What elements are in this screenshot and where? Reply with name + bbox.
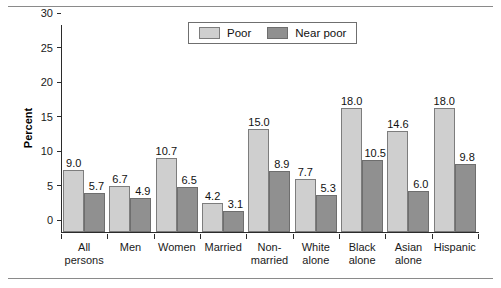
legend-swatch-near-poor-icon: [267, 27, 288, 39]
bar-near-poor[interactable]: 9.8: [455, 164, 476, 232]
bar-value-label: 7.7: [298, 167, 313, 178]
bar-value-label: 15.0: [248, 117, 269, 128]
x-axis-tick-mark: [478, 234, 479, 239]
bar-poor[interactable]: 10.7: [156, 158, 177, 232]
x-axis-category: Blackalone: [339, 234, 385, 267]
bar-near-poor[interactable]: 6.5: [177, 187, 198, 232]
y-axis-tick: 0: [47, 214, 61, 226]
bar-group: 6.74.9: [107, 25, 153, 232]
x-axis-line: [61, 232, 479, 233]
bar-near-poor[interactable]: 3.1: [223, 211, 244, 232]
x-axis-category: Hispanic: [432, 234, 478, 267]
x-axis-tick-mark: [61, 234, 62, 239]
x-axis-category: Men: [107, 234, 153, 267]
x-axis-category: Allpersons: [61, 234, 107, 267]
y-axis-tick-label: 15: [41, 111, 57, 123]
bar-group: 7.75.3: [293, 25, 339, 232]
x-axis-category-line: Women: [154, 241, 200, 254]
bar-value-label: 6.5: [181, 175, 196, 186]
y-axis-tick: 30: [41, 7, 61, 19]
x-axis-category-line: Hispanic: [432, 241, 478, 254]
legend-label-near-poor: Near poor: [295, 27, 346, 39]
y-axis-tick-label: 10: [41, 145, 57, 157]
x-axis-tick-mark: [339, 234, 340, 239]
bar-value-label: 5.7: [89, 181, 104, 192]
bar-value-label: 4.9: [135, 186, 150, 197]
bar-poor[interactable]: 14.6: [387, 131, 408, 232]
x-axis-tick-mark: [154, 234, 155, 239]
bar-group: 18.010.5: [339, 25, 385, 232]
legend-item-poor: Poor: [199, 27, 251, 39]
y-axis-tick: 25: [41, 42, 61, 54]
bar-near-poor[interactable]: 10.5: [362, 160, 383, 232]
x-axis-tick-mark: [200, 234, 201, 239]
x-axis-category: Women: [154, 234, 200, 267]
legend-item-near-poor: Near poor: [267, 27, 346, 39]
x-axis-tick-mark: [385, 234, 386, 239]
legend-swatch-poor-icon: [199, 27, 220, 39]
y-axis-tick: 20: [41, 76, 61, 88]
x-axis-category-line: married: [246, 254, 292, 267]
bar-group: 9.05.7: [61, 25, 107, 232]
bar-poor[interactable]: 18.0: [341, 108, 362, 232]
x-axis-category-line: persons: [61, 254, 107, 267]
y-axis-tick: 5: [47, 180, 61, 192]
bar-value-label: 10.7: [156, 146, 177, 157]
legend-label-poor: Poor: [227, 27, 251, 39]
bar-poor[interactable]: 6.7: [109, 186, 130, 232]
x-axis-category-line: alone: [339, 254, 385, 267]
bar-poor[interactable]: 18.0: [434, 108, 455, 232]
bar-near-poor[interactable]: 6.0: [408, 191, 429, 232]
x-axis-category: Married: [200, 234, 246, 267]
bar-value-label: 18.0: [434, 96, 455, 107]
x-axis-tick-mark: [293, 234, 294, 239]
y-axis-tick-label: 25: [41, 42, 57, 54]
bottom-divider-rule: [8, 278, 493, 279]
y-axis-tick-label: 20: [41, 76, 57, 88]
x-axis-category: Non-married: [246, 234, 292, 267]
x-axis-tick-mark: [107, 234, 108, 239]
x-axis-category-line: Married: [200, 241, 246, 254]
bar-near-poor[interactable]: 8.9: [269, 171, 290, 232]
bar-value-label: 14.6: [387, 119, 408, 130]
x-axis-category-line: Black: [339, 241, 385, 254]
y-axis-title: Percent: [22, 108, 34, 148]
bar-value-label: 4.2: [205, 191, 220, 202]
x-axis-tick-mark: [246, 234, 247, 239]
bar-group: 4.23.1: [200, 25, 246, 232]
bar-value-label: 9.8: [459, 152, 474, 163]
bar-group: 10.76.5: [154, 25, 200, 232]
bar-value-label: 8.9: [274, 159, 289, 170]
y-axis-tick-label: 0: [47, 214, 57, 226]
bar-chart-figure: Percent 051015202530 9.05.76.74.910.76.5…: [0, 0, 501, 288]
bar-near-poor[interactable]: 5.7: [84, 193, 105, 232]
x-axis-tick-mark: [432, 234, 433, 239]
x-axis-category-line: Men: [107, 241, 153, 254]
top-divider-rule: [8, 6, 493, 7]
bar-value-label: 9.0: [66, 158, 81, 169]
chart-legend: Poor Near poor: [188, 22, 357, 44]
bar-groups: 9.05.76.74.910.76.54.23.115.08.97.75.318…: [61, 25, 478, 232]
x-axis-category: Asianalone: [385, 234, 431, 267]
y-axis-tick-mark: [57, 13, 61, 14]
x-axis-category-line: Non-: [246, 241, 292, 254]
x-axis-category-line: All: [61, 241, 107, 254]
bar-poor[interactable]: 4.2: [202, 203, 223, 232]
x-axis-category-line: alone: [385, 254, 431, 267]
bar-poor[interactable]: 15.0: [248, 129, 269, 233]
bar-value-label: 10.5: [364, 148, 385, 159]
bar-poor[interactable]: 9.0: [63, 170, 84, 232]
plot-area: 051015202530 9.05.76.74.910.76.54.23.115…: [61, 25, 478, 232]
x-axis-category-line: Asian: [385, 241, 431, 254]
y-axis-tick: 10: [41, 145, 61, 157]
bar-near-poor[interactable]: 5.3: [316, 195, 337, 232]
bar-poor[interactable]: 7.7: [295, 179, 316, 232]
bar-value-label: 6.7: [112, 174, 127, 185]
bar-near-poor[interactable]: 4.9: [130, 198, 151, 232]
x-axis-category-line: alone: [293, 254, 339, 267]
bar-group: 14.66.0: [385, 25, 431, 232]
bar-value-label: 5.3: [320, 183, 335, 194]
bar-value-label: 3.1: [228, 199, 243, 210]
y-axis-tick-label: 30: [41, 7, 57, 19]
bar-value-label: 18.0: [341, 96, 362, 107]
